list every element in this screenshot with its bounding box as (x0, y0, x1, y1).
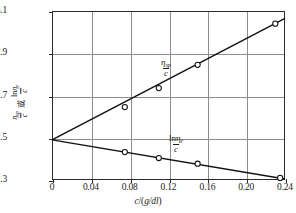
fit-line-ln_eta_r_over_c (52, 140, 285, 179)
data-point-eta_sp_over_c (273, 21, 278, 26)
fit-line-eta_sp_over_c (52, 18, 285, 139)
data-point-ln_eta_r_over_c (156, 155, 161, 160)
data-point-eta_sp_over_c (195, 62, 200, 67)
data-point-eta_sp_over_c (156, 86, 161, 91)
viscometry-chart-figure: 3.1 2.9 2.7 2.5 2.3 0 0.04 0.08 0.12 0.1… (0, 0, 296, 213)
data-point-eta_sp_over_c (122, 105, 127, 110)
data-point-ln_eta_r_over_c (195, 161, 200, 166)
data-point-ln_eta_r_over_c (278, 175, 283, 180)
data-point-ln_eta_r_over_c (122, 150, 127, 155)
data-overlay (0, 0, 296, 213)
